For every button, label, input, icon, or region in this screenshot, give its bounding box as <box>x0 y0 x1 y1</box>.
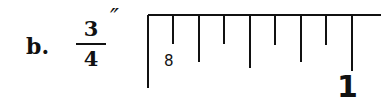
ruler-number-label: 8 <box>164 52 174 70</box>
ruler-number-label: 1 <box>337 69 358 97</box>
ruler: 81 <box>0 0 390 97</box>
ruler-labels: 81 <box>164 52 358 97</box>
